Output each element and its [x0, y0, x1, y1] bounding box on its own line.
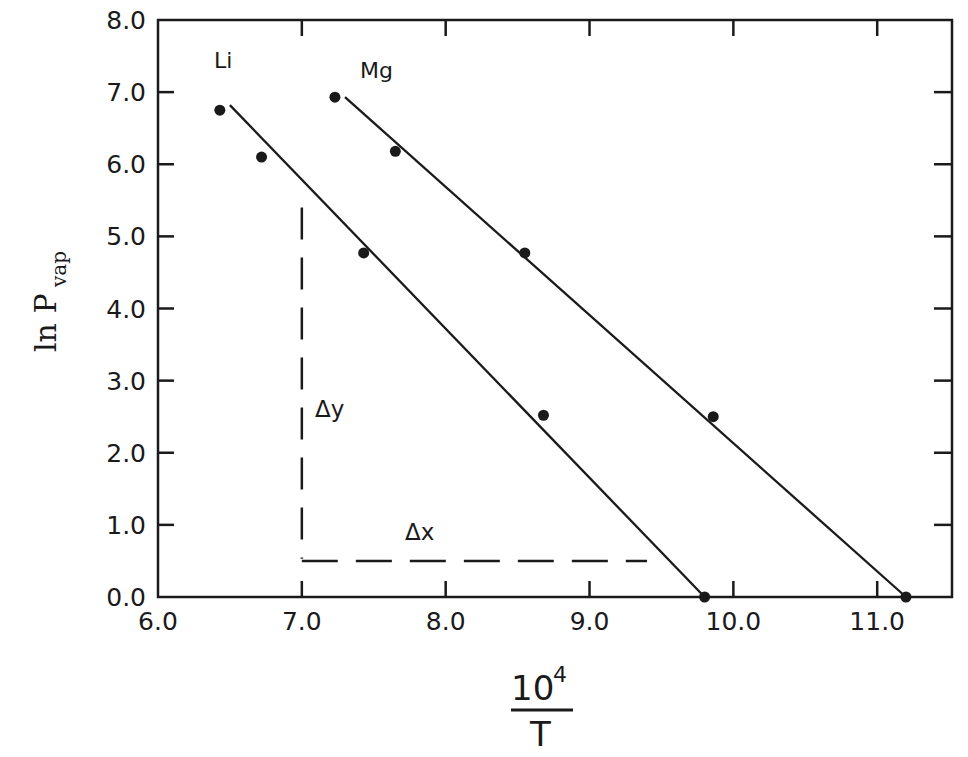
y-tick-label: 5.0 — [106, 222, 146, 251]
y-tick-label: 4.0 — [106, 295, 146, 324]
series-label-li: Li — [214, 48, 232, 73]
data-point — [708, 411, 719, 422]
y-tick-label: 2.0 — [106, 439, 146, 468]
vapor-pressure-chart: 6.07.08.09.010.011.00.01.02.03.04.05.06.… — [0, 0, 968, 757]
plot-frame — [158, 20, 952, 597]
y-tick-label: 0.0 — [106, 583, 146, 612]
y-axis-label-main: ln P — [28, 293, 63, 352]
y-axis-label: ln P vap — [28, 251, 71, 352]
data-point — [390, 146, 401, 157]
x-axis-label-numerator: 10 — [511, 668, 554, 708]
y-tick-label: 3.0 — [106, 367, 146, 396]
y-tick-label: 8.0 — [106, 6, 146, 35]
y-axis-label-subscript: vap — [47, 251, 71, 288]
data-point — [329, 92, 340, 103]
x-tick-label: 9.0 — [570, 607, 610, 636]
data-point — [900, 592, 911, 603]
x-tick-label: 7.0 — [282, 607, 322, 636]
delta-x-label: Δx — [405, 519, 434, 545]
y-tick-label: 7.0 — [106, 78, 146, 107]
series-label-mg: Mg — [360, 58, 393, 83]
series-li — [214, 105, 710, 603]
data-point — [538, 410, 549, 421]
x-tick-label: 8.0 — [426, 607, 466, 636]
data-point — [358, 247, 369, 258]
slope-annotations — [302, 208, 647, 561]
data-series — [214, 92, 911, 603]
x-axis-label: 10 4 T — [511, 662, 573, 754]
x-tick-label: 11.0 — [849, 607, 905, 636]
plot-axes — [158, 20, 952, 597]
axis-ticks: 6.07.08.09.010.011.00.01.02.03.04.05.06.… — [106, 6, 952, 636]
x-tick-label: 10.0 — [706, 607, 762, 636]
data-point — [519, 247, 530, 258]
delta-y-label: Δy — [315, 396, 344, 422]
data-point — [214, 105, 225, 116]
y-tick-label: 6.0 — [106, 150, 146, 179]
x-axis-label-denominator: T — [529, 714, 551, 754]
x-axis-label-exponent: 4 — [553, 662, 567, 687]
data-point — [256, 152, 267, 163]
data-point — [699, 592, 710, 603]
y-tick-label: 1.0 — [106, 511, 146, 540]
